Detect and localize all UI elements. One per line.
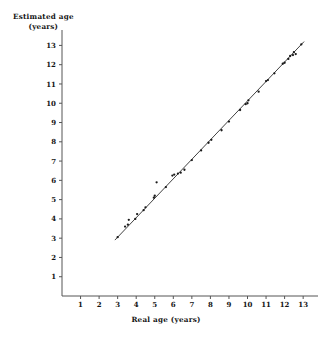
y-tick-label: 13 (46, 41, 56, 50)
scatter-plot-figure: Estimated age (years) 12345678910111213 … (0, 0, 332, 342)
x-axis-ticks: 12345678910111213 (78, 296, 308, 309)
y-tick-label: 1 (51, 272, 56, 281)
data-point (180, 171, 182, 173)
y-tick-label: 9 (51, 118, 56, 127)
data-point (207, 142, 209, 144)
data-point (173, 173, 175, 175)
x-tick-label: 3 (115, 300, 120, 309)
data-point (117, 236, 119, 238)
data-point (155, 181, 157, 183)
x-tick-label: 6 (171, 300, 176, 309)
data-point (124, 225, 126, 227)
data-point (292, 54, 294, 56)
data-point (228, 120, 230, 122)
x-axis-title: Real age (years) (0, 315, 332, 324)
data-point (127, 224, 129, 226)
x-tick-label: 2 (97, 300, 102, 309)
data-point (247, 99, 249, 101)
y-tick-label: 5 (51, 195, 56, 204)
y-tick-label: 2 (51, 253, 56, 262)
x-tick-label: 5 (152, 300, 157, 309)
y-tick-label: 6 (51, 176, 56, 185)
x-tick-label: 10 (243, 300, 253, 309)
data-point (142, 209, 144, 211)
data-point (300, 43, 302, 45)
plot-area: 12345678910111213 12345678910111213 (0, 0, 332, 342)
data-point (239, 109, 241, 111)
data-point (128, 219, 130, 221)
data-point (177, 172, 179, 174)
x-tick-label: 12 (280, 300, 290, 309)
data-point (283, 62, 285, 64)
y-axis-ticks: 12345678910111213 (46, 41, 62, 281)
data-point (200, 149, 202, 151)
data-point (144, 206, 146, 208)
y-tick-label: 8 (51, 137, 56, 146)
data-point (267, 79, 269, 81)
data-point (293, 51, 295, 53)
data-point (210, 139, 212, 141)
y-tick-label: 4 (51, 214, 56, 223)
data-point (191, 159, 193, 161)
data-point (154, 195, 156, 197)
x-tick-label: 4 (134, 300, 139, 309)
data-point (257, 91, 259, 93)
x-tick-label: 9 (227, 300, 232, 309)
y-tick-label: 3 (51, 234, 56, 243)
y-tick-label: 12 (46, 60, 56, 69)
x-tick-label: 7 (189, 300, 194, 309)
data-point (287, 58, 289, 60)
data-point (165, 186, 167, 188)
y-tick-label: 7 (51, 157, 56, 166)
y-tick-label: 10 (46, 99, 56, 108)
x-tick-label: 1 (78, 300, 83, 309)
y-tick-label: 11 (46, 80, 56, 89)
data-point (246, 102, 248, 104)
data-point (220, 129, 222, 131)
axes (62, 30, 318, 296)
x-tick-label: 11 (261, 300, 271, 309)
data-point (134, 218, 136, 220)
data-point (273, 72, 275, 74)
data-point (183, 169, 185, 171)
x-tick-label: 13 (298, 300, 308, 309)
x-tick-label: 8 (208, 300, 213, 309)
data-point (289, 55, 291, 57)
data-point (295, 53, 297, 55)
data-point (136, 213, 138, 215)
